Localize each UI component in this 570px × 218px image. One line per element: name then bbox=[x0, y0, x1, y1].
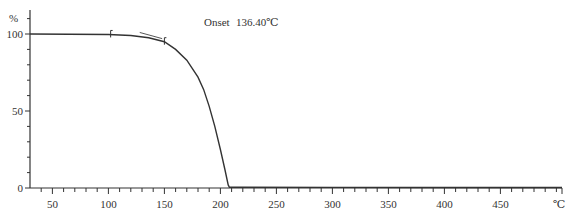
tga-chart: 50100150200250300350400450050100 % ℃ Ons… bbox=[0, 0, 570, 218]
onset-value: 136.40℃ bbox=[236, 16, 279, 28]
x-tick-label: 350 bbox=[380, 198, 397, 210]
x-axis-unit: ℃ bbox=[553, 198, 565, 210]
x-tick-label: 100 bbox=[100, 198, 117, 210]
weight-loss-curve bbox=[30, 34, 562, 188]
x-tick-label: 50 bbox=[47, 198, 59, 210]
axes bbox=[30, 10, 562, 188]
x-tick-label: 150 bbox=[156, 198, 173, 210]
tick-marks bbox=[25, 19, 562, 194]
y-tick-label: 50 bbox=[12, 105, 24, 117]
x-tick-label: 400 bbox=[436, 198, 453, 210]
y-tick-label: 100 bbox=[7, 28, 24, 40]
x-tick-label: 200 bbox=[212, 198, 229, 210]
onset-label: Onset bbox=[204, 16, 230, 28]
tick-labels: 50100150200250300350400450050100 bbox=[7, 28, 510, 210]
x-tick-label: 300 bbox=[324, 198, 341, 210]
y-axis-unit: % bbox=[9, 12, 18, 24]
x-tick-label: 450 bbox=[492, 198, 509, 210]
x-tick-label: 250 bbox=[268, 198, 285, 210]
y-tick-label: 0 bbox=[18, 182, 24, 194]
